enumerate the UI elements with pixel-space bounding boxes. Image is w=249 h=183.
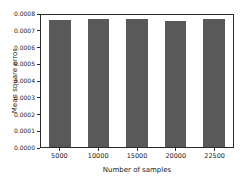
y-tick-mark: [37, 14, 40, 15]
bar[interactable]: [126, 19, 148, 147]
x-tick-label: 5000: [51, 152, 68, 161]
x-tick-mark: [137, 148, 138, 151]
bar[interactable]: [203, 19, 225, 147]
bar[interactable]: [49, 20, 71, 147]
bar-slot: [41, 15, 79, 147]
y-tick-mark: [37, 148, 40, 149]
y-tick-mark: [37, 64, 40, 65]
bar-slot: [118, 15, 156, 147]
x-tick-label: 20000: [165, 152, 186, 161]
x-tick-mark: [175, 148, 176, 151]
x-tick-label: 10000: [88, 152, 109, 161]
x-tick-mark: [98, 148, 99, 151]
y-tick-mark: [37, 131, 40, 132]
bar-slot: [156, 15, 194, 147]
bar-slot: [195, 15, 233, 147]
bar-slot: [79, 15, 117, 147]
plot-area: [40, 14, 234, 148]
y-tick-mark: [37, 114, 40, 115]
bar[interactable]: [88, 19, 110, 147]
x-tick-label: 22500: [204, 152, 225, 161]
x-axis-title: Number of samples: [40, 166, 234, 174]
x-tick-label: 15000: [127, 152, 148, 161]
y-tick-mark: [37, 47, 40, 48]
bar[interactable]: [165, 21, 187, 147]
x-tick-mark: [214, 148, 215, 151]
bar-series: [41, 15, 233, 147]
y-axis-title: Mean square error: [11, 14, 21, 148]
y-tick-mark: [37, 30, 40, 31]
chart-figure: 0.00000.00010.00020.00030.00040.00050.00…: [0, 0, 249, 183]
y-tick-mark: [37, 97, 40, 98]
x-tick-mark: [59, 148, 60, 151]
y-tick-mark: [37, 81, 40, 82]
